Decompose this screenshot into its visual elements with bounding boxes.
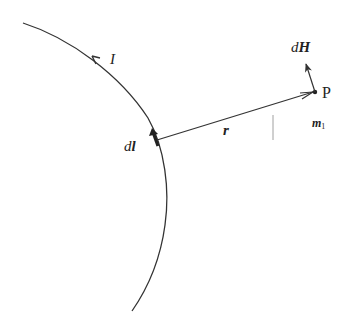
dH-vector-arrow xyxy=(306,64,315,92)
label-dl: dl xyxy=(124,138,137,154)
label-dl-l: l xyxy=(132,138,137,154)
label-current-I: I xyxy=(109,51,116,67)
label-m1-sub: 1 xyxy=(321,122,325,131)
label-r: r xyxy=(223,122,229,138)
label-dH: dH xyxy=(291,39,312,55)
label-m1-m: m xyxy=(312,116,321,130)
label-dH-H: H xyxy=(298,39,312,55)
wire-arc xyxy=(23,23,167,311)
r-vector-arrow xyxy=(157,92,313,140)
biot-savart-diagram: I dl r P dH m1 xyxy=(0,0,362,334)
label-point-P: P xyxy=(322,84,331,101)
label-m1: m1 xyxy=(312,116,325,131)
